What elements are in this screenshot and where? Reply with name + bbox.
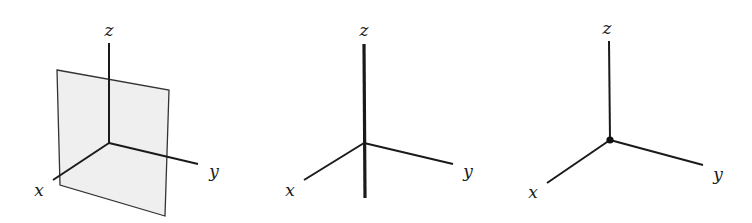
- y-axis: [610, 140, 703, 165]
- diagram-point: z x y: [528, 18, 723, 202]
- diagram-line: z x y: [285, 20, 473, 200]
- x-axis: [304, 143, 364, 180]
- z-label: z: [104, 20, 115, 40]
- y-label: y: [208, 161, 219, 181]
- origin-point: [606, 136, 613, 143]
- y-label: y: [712, 164, 723, 184]
- diagrams-canvas: z x y z x y z x y: [0, 0, 752, 223]
- x-label: x: [34, 180, 44, 200]
- z-axis-line: [364, 44, 365, 198]
- x-label: x: [528, 182, 538, 202]
- z-label: z: [359, 20, 370, 40]
- y-label: y: [462, 161, 473, 181]
- x-axis: [547, 140, 610, 183]
- diagram-plane: z x y: [34, 20, 219, 216]
- z-label: z: [602, 18, 613, 38]
- x-label: x: [285, 180, 295, 200]
- z-axis: [609, 41, 610, 140]
- y-axis: [364, 143, 453, 164]
